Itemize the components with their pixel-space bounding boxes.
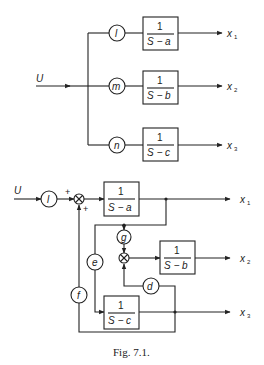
svg-text:+: + — [65, 187, 70, 197]
svg-text:S − c: S − c — [108, 315, 131, 326]
svg-text:3: 3 — [234, 146, 238, 152]
svg-text:1: 1 — [118, 300, 124, 311]
gain-n-label: n — [114, 140, 120, 151]
output-x2-top: x — [226, 81, 233, 92]
svg-text:2: 2 — [234, 87, 238, 93]
parallel-diagram: U l 1 S − a x 1 m 1 S − b x 2 n 1 — [36, 17, 238, 161]
output-x1-top: x — [226, 28, 233, 39]
svg-text:S − a: S − a — [108, 202, 132, 213]
svg-text:g: g — [121, 232, 127, 243]
svg-text:S − c: S − c — [147, 147, 170, 158]
output-x2: x — [239, 253, 246, 264]
bottom-input-label: U — [14, 185, 22, 196]
svg-text:d: d — [147, 281, 153, 292]
svg-text:S − a: S − a — [147, 36, 171, 47]
svg-text:1: 1 — [174, 245, 180, 256]
svg-text:e: e — [92, 257, 98, 268]
svg-text:2: 2 — [247, 259, 251, 265]
block-diagram: U l 1 S − a x 1 m 1 S − b x 2 n 1 — [0, 0, 264, 365]
svg-text:1: 1 — [247, 200, 251, 206]
svg-text:1: 1 — [118, 186, 124, 197]
top-input-label: U — [36, 73, 44, 84]
output-x1: x — [239, 194, 246, 205]
feedback-diagram: U l + + 1 S − a x 1 g — [14, 182, 251, 332]
summing-junction-1 — [74, 194, 84, 204]
svg-text:1: 1 — [157, 21, 163, 32]
svg-text:1: 1 — [157, 132, 163, 143]
figure-caption: Fig. 7.1. — [113, 346, 150, 358]
svg-text:S − b: S − b — [147, 90, 171, 101]
summing-junction-2 — [119, 253, 129, 263]
svg-text:3: 3 — [247, 313, 251, 319]
svg-text:1: 1 — [157, 75, 163, 86]
output-x3: x — [239, 307, 246, 318]
svg-text:S − b: S − b — [164, 260, 188, 271]
svg-text:1: 1 — [234, 34, 238, 40]
svg-text:+: + — [83, 204, 88, 214]
gain-m-label: m — [112, 81, 120, 92]
output-x3-top: x — [226, 140, 233, 151]
